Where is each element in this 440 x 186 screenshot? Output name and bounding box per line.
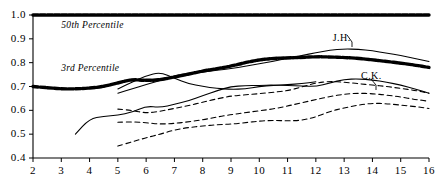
chart-figure: 0.40.50.60.70.80.91.0 234567891011121314… (0, 0, 440, 186)
x-axis-tick-label: 15 (386, 165, 416, 176)
x-axis-tick-label: 10 (244, 165, 274, 176)
x-axis-tick-label: 14 (357, 165, 387, 176)
y-axis-tick-label: 0.8 (11, 57, 26, 68)
x-axis-tick-label: 6 (131, 165, 161, 176)
x-axis-tick-label: 8 (188, 165, 218, 176)
y-axis-tick-label: 1.0 (11, 9, 26, 20)
annotation-leader-lines (347, 35, 376, 90)
annotation-jh: J.H. (333, 33, 351, 43)
x-axis-tick-label: 5 (103, 165, 133, 176)
chart-series-dashed-series-upper (118, 82, 429, 113)
y-axis-tick-label: 0.6 (11, 104, 26, 115)
x-axis-tick-label: 4 (75, 165, 105, 176)
chart-series-dashed-series-lower (118, 103, 429, 146)
y-axis-tick-label: 0.5 (11, 128, 26, 139)
y-axis-tick-label: 0.9 (11, 33, 26, 44)
y-axis-tick-label: 0.7 (11, 81, 26, 92)
x-axis-tick-label: 9 (216, 165, 246, 176)
x-axis-tick-label: 12 (301, 165, 331, 176)
x-axis-tick-label: 7 (159, 165, 189, 176)
x-axis-ticks (33, 158, 429, 162)
x-axis-tick-label: 16 (414, 165, 440, 176)
annotation-50th-percentile: 50th Percentile (61, 21, 123, 31)
chart-series-dashed-series-middle (118, 93, 429, 124)
y-axis-tick-label: 0.4 (11, 152, 26, 163)
annotation-ck: C.K. (361, 71, 382, 81)
x-axis-tick-label: 3 (46, 165, 76, 176)
x-axis-tick-label: 11 (273, 165, 303, 176)
x-axis-tick-label: 13 (329, 165, 359, 176)
x-axis-tick-label: 2 (18, 165, 48, 176)
annotation-3rd-percentile: 3rd Percentile (61, 64, 119, 74)
